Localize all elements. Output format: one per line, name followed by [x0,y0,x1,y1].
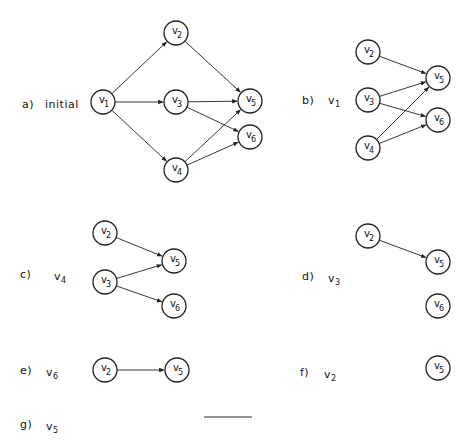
node-e-v5: v5 [165,358,189,382]
node-a-v3: v3 [164,90,188,114]
node-d-v6: v6 [426,294,450,318]
node-b-v3: v3 [356,88,380,112]
edge-b-v4-v6 [379,125,426,144]
node-b-v2: v2 [356,40,380,64]
node-a-v5: v5 [238,89,262,113]
svg-text:5: 5 [439,260,444,269]
svg-text:3: 3 [369,98,374,107]
node-a-v2: v2 [164,21,188,45]
edge-a-v2-v5 [185,41,241,92]
edge-c-v3-v5 [116,265,161,279]
panel-label-a: a) [22,98,34,111]
graph-canvas: v1v2v3v4v5v6v2v3v4v5v6v2v3v5v6v2v5v6v2v5… [0,0,470,448]
panel-caption-c: v4 [54,270,67,285]
node-a-v4: v4 [164,158,188,182]
panel-caption-e: v6 [46,366,59,381]
svg-text:6: 6 [175,304,180,313]
edges-layer [112,41,429,417]
panel-caption-b: v1 [328,94,341,109]
svg-text:4: 4 [177,168,182,177]
edge-b-v2-v5 [379,56,426,73]
panel-caption-f: v2 [324,368,337,383]
node-e-v2: v2 [93,358,117,382]
node-b-v6: v6 [426,108,450,132]
svg-text:6: 6 [439,118,444,127]
panel-label-c: c) [20,268,31,281]
edge-c-v2-v5 [116,238,162,257]
node-f-v5: v5 [426,356,450,380]
svg-text:4: 4 [369,146,374,155]
svg-text:5: 5 [251,99,256,108]
svg-text:5: 5 [175,259,180,268]
panel-label-e: e) [20,364,32,377]
edge-b-v3-v6 [380,103,426,116]
panel-label-d: d) [302,270,314,283]
edge-a-v4-v6 [187,142,238,165]
node-c-v2: v2 [93,221,117,245]
svg-text:1: 1 [104,100,109,109]
svg-text:2: 2 [369,50,374,59]
svg-text:2: 2 [177,31,182,40]
node-b-v5: v5 [426,66,450,90]
svg-text:3: 3 [106,280,111,289]
svg-text:6: 6 [439,304,444,313]
edge-d-v2-v5 [379,240,426,257]
node-a-v1: v1 [91,90,115,114]
node-c-v3: v3 [93,270,117,294]
nodes-layer: v1v2v3v4v5v6v2v3v4v5v6v2v3v5v6v2v5v6v2v5… [91,21,450,382]
svg-text:3: 3 [177,100,182,109]
svg-text:2: 2 [106,231,111,240]
panel-caption-g: v5 [46,420,59,435]
panel-caption-d: v3 [328,272,341,287]
edge-c-v3-v6 [116,286,161,302]
edge-a-v1-v4 [112,110,167,161]
panel-label-b: b) [302,94,314,107]
panel-caption-a: initial [45,98,79,111]
edge-b-v3-v5 [379,82,425,97]
svg-text:5: 5 [178,368,183,377]
node-b-v4: v4 [356,136,380,160]
node-d-v5: v5 [426,250,450,274]
svg-text:5: 5 [439,76,444,85]
panel-label-g: g) [20,418,32,431]
edge-a-v3-v5 [188,101,237,102]
panel-label-f: f) [300,366,309,379]
svg-text:5: 5 [439,366,444,375]
svg-text:2: 2 [369,234,374,243]
node-a-v6: v6 [238,125,262,149]
svg-text:2: 2 [106,368,111,377]
edge-a-v1-v2 [112,42,167,94]
node-d-v2: v2 [356,224,380,248]
svg-text:6: 6 [251,135,256,144]
node-c-v6: v6 [162,294,186,318]
node-c-v5: v5 [162,249,186,273]
